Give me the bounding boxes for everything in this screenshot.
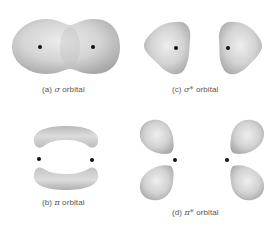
pi-upper-lobe: [34, 126, 98, 148]
caption-d-prefix: (d): [172, 208, 182, 217]
caption-d-symbol: π*: [184, 208, 193, 217]
caption-d: (d) π* orbital: [172, 208, 219, 217]
caption-a-prefix: (a): [42, 85, 52, 94]
caption-b: (b) π orbital: [42, 198, 85, 207]
nucleus-dot: [173, 158, 177, 162]
pi-lower-lobe: [34, 167, 98, 190]
nucleus-dot: [37, 157, 41, 161]
caption-c-symbol: σ*: [184, 85, 194, 94]
nucleus-dot: [38, 45, 42, 49]
caption-a: (a) σ orbital: [42, 85, 85, 94]
nucleus-dot: [225, 158, 229, 162]
caption-b-symbol: π: [54, 198, 59, 207]
caption-b-suffix: orbital: [62, 198, 85, 207]
caption-c: (c) σ* orbital: [172, 85, 218, 94]
panel-a-sigma-orbital: [12, 19, 120, 74]
nucleus-dot: [90, 158, 94, 162]
nucleus-dot: [226, 46, 230, 50]
nucleus-dot: [91, 45, 95, 49]
panel-b-pi-orbital: [34, 126, 98, 190]
sigma-star-left-lobe: [144, 22, 190, 75]
pi-star-lower-left-lobe: [140, 165, 174, 200]
caption-a-symbol: σ: [54, 85, 60, 94]
molecular-orbital-diagram: [0, 0, 275, 226]
pi-star-lower-right-lobe: [230, 165, 264, 200]
pi-star-upper-right-lobe: [230, 120, 264, 154]
caption-b-prefix: (b): [42, 198, 52, 207]
caption-d-suffix: orbital: [196, 208, 219, 217]
panel-d-pi-star-orbital: [140, 120, 264, 201]
panel-c-sigma-star-orbital: [144, 22, 262, 75]
sigma-star-right-lobe: [219, 22, 262, 75]
caption-a-suffix: orbital: [62, 85, 85, 94]
nucleus-dot: [174, 46, 178, 50]
caption-c-suffix: orbital: [196, 85, 219, 94]
caption-c-prefix: (c): [172, 85, 182, 94]
pi-star-upper-left-lobe: [140, 120, 174, 154]
